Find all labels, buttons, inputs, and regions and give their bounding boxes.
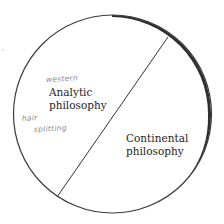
- annotation-splitting: splitting: [34, 123, 67, 134]
- label-continental-line1: Continental: [126, 132, 189, 144]
- label-analytic-line2: philosophy: [49, 99, 107, 111]
- label-analytic-line1: Analytic: [48, 86, 92, 98]
- annotation-western: western: [46, 73, 79, 84]
- label-continental-line2: philosophy: [126, 145, 184, 157]
- annotation-hair-splitting: hair: [22, 113, 39, 123]
- philosophy-divided-circle: western Analytic philosophy hair splitti…: [0, 0, 224, 224]
- annotation-hair: hair: [22, 113, 39, 123]
- stray-dot: [2, 49, 4, 51]
- divider-line: [57, 37, 168, 197]
